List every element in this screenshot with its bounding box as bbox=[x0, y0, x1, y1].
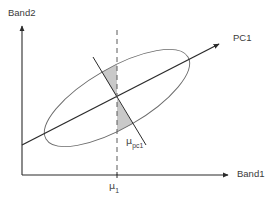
mean-pc1-label: μpc1 bbox=[126, 136, 143, 149]
mu-pc1-subscript: pc1 bbox=[132, 142, 143, 149]
pc2-projection-line bbox=[93, 57, 146, 145]
mean-band1-label: μ1 bbox=[109, 181, 119, 194]
axis-group bbox=[22, 26, 228, 175]
x-axis-label: Band1 bbox=[237, 169, 264, 179]
mu-subscript: 1 bbox=[115, 187, 119, 194]
pca-diagram-figure: Band2 Band1 PC1 μ1 μpc1 bbox=[0, 0, 279, 197]
pc1-axis-label: PC1 bbox=[233, 33, 251, 43]
y-axis-label: Band2 bbox=[8, 8, 35, 18]
